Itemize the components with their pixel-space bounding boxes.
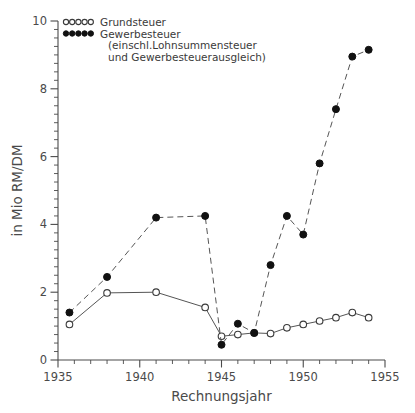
data-point-gewerbesteuer [218,341,225,348]
chart-container: 024681019351940194519501955Rechnungsjahr… [0,0,415,413]
legend-marker-grundsteuer [88,19,93,24]
data-point-grundsteuer [267,330,274,337]
data-point-gewerbesteuer [332,106,339,113]
data-point-grundsteuer [235,331,242,338]
y-axis-tick-label: 10 [32,14,47,28]
series-line-grundsteuer [69,292,368,336]
data-point-gewerbesteuer [202,212,209,219]
legend-marker-gewerbesteuer [70,31,75,36]
legend-marker-gewerbesteuer [88,31,93,36]
y-axis-tick-label: 4 [40,217,47,231]
legend-note-line-1: (einschl.Lohnsummensteuer [108,39,258,51]
data-point-grundsteuer [284,325,291,332]
data-point-gewerbesteuer [316,160,323,167]
data-point-grundsteuer [104,290,111,297]
data-point-grundsteuer [300,321,307,328]
data-point-gewerbesteuer [66,309,73,316]
x-axis-tick-label: 1955 [370,370,399,384]
legend-marker-grundsteuer [82,19,87,24]
legend-marker-grundsteuer [63,19,68,24]
data-point-grundsteuer [365,314,372,321]
y-axis-tick-label: 2 [40,285,47,299]
x-axis-tick-label: 1945 [207,370,236,384]
y-axis-title: in Mio RM/DM [9,144,25,236]
data-point-gewerbesteuer [300,231,307,238]
data-point-gewerbesteuer [153,214,160,221]
line-chart: 024681019351940194519501955Rechnungsjahr… [0,0,415,413]
legend-note-line-2: und Gewerbesteuerausgleich) [108,51,266,63]
legend-marker-gewerbesteuer [63,31,68,36]
data-point-gewerbesteuer [267,262,274,269]
x-axis-tick-label: 1950 [289,370,318,384]
data-point-grundsteuer [316,318,323,325]
x-axis-tick-label: 1935 [43,370,72,384]
legend-marker-gewerbesteuer [76,31,81,36]
data-point-gewerbesteuer [349,53,356,60]
x-axis-title: Rechnungsjahr [171,388,272,404]
data-point-gewerbesteuer [251,329,258,336]
data-point-grundsteuer [202,304,209,311]
legend-marker-gewerbesteuer [82,31,87,36]
legend-marker-grundsteuer [76,19,81,24]
series-line-gewerbesteuer [69,50,368,345]
data-point-grundsteuer [218,333,225,340]
data-point-grundsteuer [349,309,356,316]
x-axis-tick-label: 1940 [125,370,154,384]
data-point-gewerbesteuer [234,320,241,327]
y-axis-tick-label: 8 [40,82,47,96]
data-point-gewerbesteuer [283,212,290,219]
data-point-gewerbesteuer [365,46,372,53]
y-axis-tick-label: 6 [40,150,47,164]
legend-label-grundsteuer: Grundsteuer [100,16,167,28]
y-axis-tick-label: 0 [40,353,47,367]
data-point-grundsteuer [66,321,73,328]
legend-marker-grundsteuer [70,19,75,24]
data-point-grundsteuer [333,314,340,321]
data-point-gewerbesteuer [104,273,111,280]
legend-label-gewerbesteuer: Gewerbesteuer [100,28,181,40]
data-point-grundsteuer [153,289,160,296]
